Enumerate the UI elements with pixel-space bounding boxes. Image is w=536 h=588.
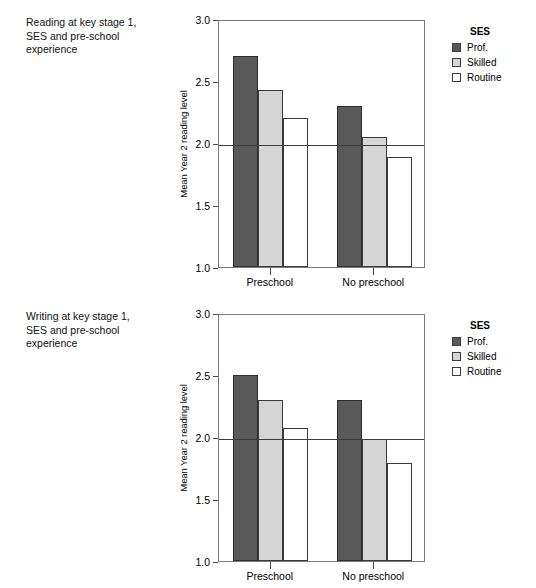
bar-no-preschool-skilled[interactable] [362, 439, 387, 561]
panel-caption-writing: Writing at key stage 1, SES and pre-scho… [26, 310, 186, 351]
y-tick-label: 2.5 [170, 370, 210, 382]
legend-title: SES [470, 26, 536, 37]
legend-swatch-prof-icon [452, 43, 461, 52]
legend-label-routine: Routine [467, 366, 501, 377]
plot-inner-reading [219, 21, 424, 267]
bar-preschool-prof[interactable] [233, 375, 258, 561]
bar-preschool-skilled[interactable] [258, 400, 283, 561]
x-tick-label: No preschool [318, 570, 428, 582]
x-axis-reading: PreschoolNo preschool [218, 268, 425, 294]
reference-line [219, 145, 424, 146]
legend-reading: SES Prof. Skilled Routine [452, 26, 536, 87]
plot-area-reading [218, 20, 425, 268]
bar-preschool-prof[interactable] [233, 56, 258, 267]
bar-no-preschool-prof[interactable] [337, 400, 362, 561]
legend-title: SES [470, 320, 536, 331]
y-tick-label: 2.0 [170, 138, 210, 150]
bar-preschool-routine[interactable] [283, 118, 308, 267]
legend-label-skilled: Skilled [467, 57, 496, 68]
plot-inner-writing [219, 315, 424, 561]
chart-panel-reading: Reading at key stage 1, SES and pre-scho… [0, 0, 536, 294]
legend-item-skilled[interactable]: Skilled [452, 351, 536, 362]
y-tick-label: 1.0 [170, 556, 210, 568]
x-tick-label: No preschool [318, 276, 428, 288]
legend-swatch-prof-icon [452, 337, 461, 346]
legend-item-prof[interactable]: Prof. [452, 42, 536, 53]
x-tick-mark [270, 268, 271, 275]
bar-preschool-skilled[interactable] [258, 90, 283, 267]
legend-label-skilled: Skilled [467, 351, 496, 362]
chart-panel-writing: Writing at key stage 1, SES and pre-scho… [0, 294, 536, 588]
y-tick-label: 1.5 [170, 494, 210, 506]
legend-item-routine[interactable]: Routine [452, 72, 536, 83]
y-tick-label: 3.0 [170, 14, 210, 26]
y-tick-label: 2.0 [170, 432, 210, 444]
reference-line [219, 439, 424, 440]
bar-no-preschool-routine[interactable] [387, 157, 412, 267]
x-tick-mark [373, 562, 374, 569]
y-tick-label: 3.0 [170, 308, 210, 320]
legend-swatch-routine-icon [452, 73, 461, 82]
legend-item-prof[interactable]: Prof. [452, 336, 536, 347]
bar-no-preschool-skilled[interactable] [362, 137, 387, 267]
bar-no-preschool-routine[interactable] [387, 463, 412, 561]
y-tick-label: 1.5 [170, 200, 210, 212]
bar-no-preschool-prof[interactable] [337, 106, 362, 267]
y-tick-label: 1.0 [170, 262, 210, 274]
legend-swatch-skilled-icon [452, 352, 461, 361]
legend-label-prof: Prof. [467, 42, 488, 53]
legend-swatch-skilled-icon [452, 58, 461, 67]
plot-area-writing [218, 314, 425, 562]
x-tick-label: Preschool [215, 276, 325, 288]
y-tick-label: 2.5 [170, 76, 210, 88]
legend-item-skilled[interactable]: Skilled [452, 57, 536, 68]
legend-writing: SES Prof. Skilled Routine [452, 320, 536, 381]
x-axis-writing: PreschoolNo preschool [218, 562, 425, 588]
legend-label-prof: Prof. [467, 336, 488, 347]
legend-item-routine[interactable]: Routine [452, 366, 536, 377]
x-tick-label: Preschool [215, 570, 325, 582]
panel-caption-reading: Reading at key stage 1, SES and pre-scho… [26, 16, 186, 57]
x-tick-mark [373, 268, 374, 275]
x-tick-mark [270, 562, 271, 569]
legend-label-routine: Routine [467, 72, 501, 83]
legend-swatch-routine-icon [452, 367, 461, 376]
bar-preschool-routine[interactable] [283, 428, 308, 561]
